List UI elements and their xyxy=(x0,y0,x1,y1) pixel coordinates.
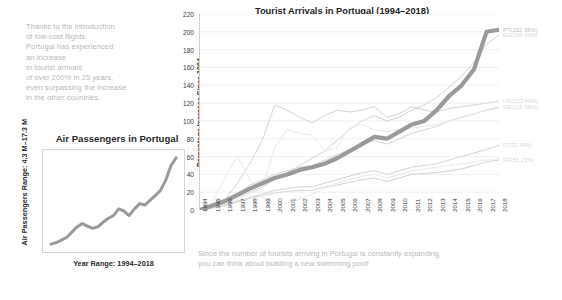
x-tick-label: 2017 xyxy=(489,198,496,212)
intro-line: in the other countries. xyxy=(26,93,186,103)
x-tick-label: 2004 xyxy=(326,198,333,212)
intro-line: of low-cost flights, xyxy=(26,32,186,42)
x-tick-label: 2005 xyxy=(339,198,346,212)
mini-chart-line-svg xyxy=(43,150,184,252)
series-end-label: ES(196.43%) xyxy=(503,32,538,38)
x-tick-label: 2008 xyxy=(376,198,383,212)
main-chart-x-ticks: 1994199519961997199819992000200120022003… xyxy=(199,212,499,252)
tourist-arrivals-chart: Tourist Arrivals in Portugal (1994–2018)… xyxy=(168,4,562,256)
x-tick-label: 2009 xyxy=(389,198,396,212)
mini-chart-y-axis-label: Air Passengers Range: 4.3 M–17.3 M xyxy=(20,126,29,246)
x-tick-label: 1998 xyxy=(251,198,258,212)
intro-line: even surpassing the increase xyxy=(26,83,186,93)
intro-paragraph: Thanks to the introduction of low-cost f… xyxy=(26,22,186,104)
x-tick-label: 2001 xyxy=(289,198,296,212)
main-chart-lines-svg xyxy=(200,14,499,210)
main-chart-plot-area xyxy=(199,14,499,210)
y-tick-label: 80 xyxy=(187,135,194,142)
mini-chart-x-axis-label: Year Range: 1994–2018 xyxy=(42,259,185,268)
y-tick-label: 160 xyxy=(183,64,194,71)
x-tick-label: 1995 xyxy=(214,198,221,212)
y-tick-label: 140 xyxy=(183,82,194,89)
y-tick-label: 20 xyxy=(187,189,194,196)
x-tick-label: 2000 xyxy=(276,198,283,212)
x-tick-label: 2011 xyxy=(414,199,421,212)
intro-line: an increase xyxy=(26,53,186,63)
y-tick-label: 120 xyxy=(183,100,194,107)
y-tick-label: 220 xyxy=(183,11,194,18)
caption-line: you can think about building a new swimm… xyxy=(198,259,538,269)
series-end-label: FR(56.23%) xyxy=(503,157,535,163)
x-tick-label: 2003 xyxy=(314,198,321,212)
x-tick-label: 2015 xyxy=(464,198,471,212)
intro-line: Thanks to the introduction xyxy=(26,22,186,32)
main-chart-series-labels: PT(202.36%)ES(196.43%)US(122.49%)DE(115.… xyxy=(501,14,561,210)
y-tick-label: 180 xyxy=(183,46,194,53)
infographic-page: Thanks to the introduction of low-cost f… xyxy=(0,0,562,300)
series-end-label: DE(115.98%) xyxy=(503,104,538,110)
x-tick-label: 1994 xyxy=(201,198,208,212)
air-passengers-chart: Air Passengers in Portugal Air Passenger… xyxy=(8,133,194,283)
y-tick-label: 0 xyxy=(190,207,194,214)
intro-line: of over 200% in 25 years, xyxy=(26,73,186,83)
y-tick-label: 200 xyxy=(183,28,194,35)
x-tick-label: 2006 xyxy=(351,198,358,212)
x-tick-label: 2010 xyxy=(401,198,408,212)
x-tick-label: 1999 xyxy=(264,198,271,212)
x-tick-label: 2016 xyxy=(476,198,483,212)
y-tick-label: 100 xyxy=(183,117,194,124)
footer-caption: Since the number of tourists arriving in… xyxy=(198,249,538,270)
y-tick-label: 60 xyxy=(187,153,194,160)
x-tick-label: 2013 xyxy=(439,198,446,212)
intro-line: Portugal has experienced xyxy=(26,42,186,52)
intro-line: in tourist arrivals xyxy=(26,63,186,73)
x-tick-label: 1996 xyxy=(226,198,233,212)
main-chart-y-ticks: 020406080100120140160180200220 xyxy=(174,14,194,210)
x-tick-label: 2012 xyxy=(426,198,433,212)
x-tick-label: 1997 xyxy=(239,198,246,212)
x-tick-label: 2007 xyxy=(364,198,371,212)
caption-line: Since the number of tourists arriving in… xyxy=(198,249,538,259)
y-tick-label: 40 xyxy=(187,171,194,178)
x-tick-label: 2002 xyxy=(301,198,308,212)
mini-chart-plot-area xyxy=(42,149,185,253)
x-tick-label: 2014 xyxy=(451,198,458,212)
series-end-label: IT(72.74%) xyxy=(503,142,532,148)
